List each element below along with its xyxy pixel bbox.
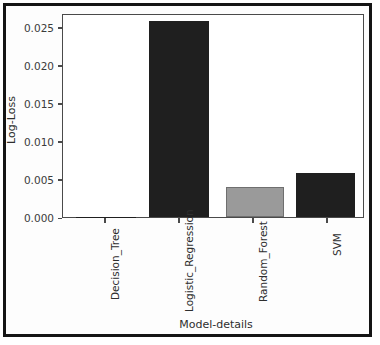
y-tick-label: 0.005 [10, 174, 54, 186]
bar-chart-figure: Log-Loss 0.000 0.005 0.010 0.015 0.020 0… [0, 0, 380, 345]
bars-layer [63, 15, 363, 217]
y-tick-label: 0.020 [10, 60, 54, 72]
y-tick-label: 0.025 [10, 22, 54, 34]
x-tick-label-random-forest: Random_Forest [257, 221, 269, 302]
y-tick-label: 0.010 [10, 136, 54, 148]
bar-svm[interactable] [296, 173, 355, 217]
x-tick-label-decision-tree: Decision_Tree [109, 228, 121, 300]
y-tick-label: 0.000 [10, 212, 54, 224]
bar-logistic-regression[interactable] [149, 21, 209, 217]
y-tick-label: 0.015 [10, 98, 54, 110]
x-tick-label-svm: SVM [331, 233, 343, 256]
x-axis-label-text: Model-details [179, 318, 253, 331]
x-axis-label: Model-details [0, 318, 380, 331]
x-tick-mark [178, 218, 180, 223]
plot-area [62, 14, 364, 218]
x-tick-mark [104, 218, 106, 223]
x-tick-label-logistic-regression: Logistic_Regression [183, 209, 195, 312]
bar-random-forest[interactable] [226, 187, 284, 217]
x-tick-mark [252, 218, 254, 223]
x-tick-mark [326, 218, 328, 223]
bar-decision-tree[interactable] [76, 217, 136, 218]
